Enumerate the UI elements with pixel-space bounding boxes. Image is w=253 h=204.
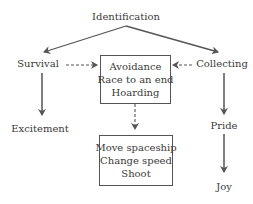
node-collecting: Collecting [196, 58, 248, 70]
node-joy: Joy [216, 181, 232, 193]
mechanics-item: Race to an end [98, 73, 174, 86]
mechanics-item: Avoidance [109, 60, 161, 73]
action-item: Change speed [100, 154, 172, 167]
action-item: Move spaceship [95, 141, 176, 154]
node-pride: Pride [210, 120, 237, 132]
mechanics-box: Avoidance Race to an end Hoarding [100, 55, 171, 104]
node-excitement: Excitement [11, 123, 69, 135]
action-item: Shoot [121, 167, 150, 180]
mechanics-item: Hoarding [112, 86, 160, 99]
node-identification: Identification [92, 11, 160, 23]
arrow-identification-to-collecting [126, 26, 218, 52]
actions-box: Move spaceship Change speed Shoot [99, 135, 173, 186]
arrow-identification-to-survival [44, 26, 126, 52]
node-survival: Survival [17, 58, 59, 70]
